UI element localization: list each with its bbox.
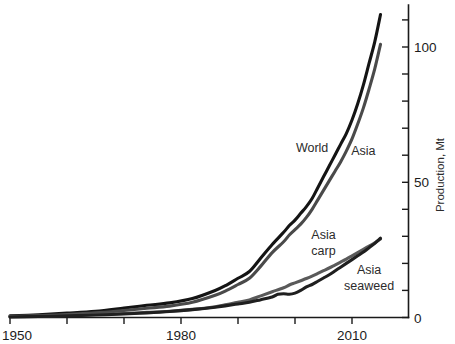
production-line-chart: 050100 195019802010 WorldAsiaAsiacarpAsi… [0, 0, 455, 344]
x-tick-label-1950: 1950 [2, 328, 32, 343]
annotation-asia-2: Asia [311, 228, 335, 242]
annotation-asia-1: Asia [351, 144, 375, 158]
series-group [10, 15, 381, 317]
series-annotations: WorldAsiaAsiacarpAsiaseaweed [296, 141, 394, 293]
annotation-seaweed-5: seaweed [344, 279, 394, 293]
chart-canvas: 050100 195019802010 WorldAsiaAsiacarpAsi… [0, 0, 455, 344]
axes-group [10, 5, 409, 318]
y-axis-ticks [402, 20, 409, 318]
annotation-carp-3: carp [311, 244, 335, 258]
x-tick-label-2010: 2010 [337, 328, 367, 343]
y-tick-label-100: 100 [414, 40, 437, 55]
x-axis-ticks [10, 318, 352, 325]
annotation-world-0: World [296, 141, 328, 155]
x-tick-labels: 195019802010 [2, 328, 367, 343]
annotation-asia-4: Asia [357, 263, 381, 277]
y-tick-label-50: 50 [414, 175, 429, 190]
y-axis-title: Production, Mt [434, 137, 446, 212]
y-tick-label-0: 0 [414, 311, 422, 326]
x-tick-label-1980: 1980 [166, 328, 196, 343]
